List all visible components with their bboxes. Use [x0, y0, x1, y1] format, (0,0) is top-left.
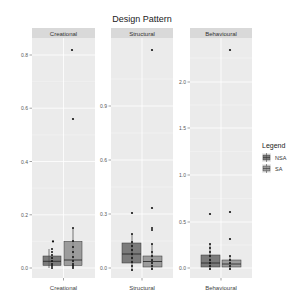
y-tick-label: 2.0 — [179, 79, 186, 85]
legend-label: SA — [275, 166, 283, 172]
boxplot-chart: Design Pattern Creational 0.8 0.6 0.4 0.… — [0, 0, 302, 308]
strip-label: Creational — [50, 31, 77, 37]
legend: Legend NSA SA — [262, 142, 287, 173]
legend-item-nsa: NSA — [262, 153, 287, 162]
y-tick-label: 0.4 — [21, 159, 28, 165]
y-tick-label: 1.5 — [179, 125, 186, 131]
y-tick-label: 0.3 — [100, 211, 107, 217]
legend-item-sa: SA — [262, 164, 283, 173]
x-tick-label: Behavioural — [205, 285, 237, 291]
facet-behavioural: Behavioural 2.0 1.5 1.0 0.5 0.0 — [179, 28, 252, 291]
y-axis: 2.0 1.5 1.0 0.5 0.0 — [179, 79, 190, 271]
facet-structural: Structural 0.9 0.6 0.3 0.0 — [100, 28, 173, 291]
strip-label: Structural — [129, 31, 155, 37]
y-tick-label: 0.0 — [21, 265, 28, 271]
y-tick-label: 0.6 — [100, 157, 107, 163]
y-tick-label: 0.0 — [100, 265, 107, 271]
strip-label: Behavioural — [205, 31, 237, 37]
y-axis: 0.9 0.6 0.3 0.0 — [100, 103, 111, 271]
y-tick-label: 0.0 — [179, 265, 186, 271]
y-tick-label: 0.8 — [21, 52, 28, 58]
y-axis: 0.8 0.6 0.4 0.2 0.0 — [21, 52, 32, 271]
y-tick-label: 0.2 — [21, 212, 28, 218]
y-tick-label: 0.5 — [179, 219, 186, 225]
y-tick-label: 0.6 — [21, 105, 28, 111]
x-tick-label: Structural — [129, 285, 155, 291]
legend-title: Legend — [262, 142, 285, 150]
y-tick-label: 1.0 — [179, 172, 186, 178]
legend-label: NSA — [275, 155, 287, 161]
facet-creational: Creational 0.8 0.6 0.4 0.2 0.0 — [21, 28, 95, 291]
chart-title: Design Pattern — [112, 14, 172, 24]
y-tick-label: 0.9 — [100, 103, 107, 109]
x-tick-label: Creational — [50, 285, 77, 291]
